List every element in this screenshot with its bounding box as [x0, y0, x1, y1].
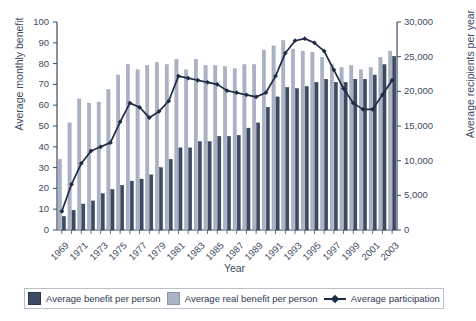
bar-benefit	[363, 79, 366, 230]
bar-benefit	[344, 82, 347, 230]
bar-benefit	[305, 86, 308, 230]
bar-real-benefit	[321, 57, 324, 230]
bar-real-benefit	[126, 65, 129, 230]
bar-benefit	[208, 142, 211, 230]
bar-benefit	[257, 123, 260, 230]
bar-benefit	[169, 159, 172, 230]
bar-real-benefit	[311, 52, 314, 230]
y-tick-right: 15,000	[404, 120, 448, 131]
participation-marker	[302, 36, 307, 41]
bar-benefit	[159, 168, 162, 230]
line-marker-icon	[324, 293, 346, 304]
y-tick-left: 10	[19, 203, 49, 214]
bar-real-benefit	[87, 103, 90, 230]
legend-label: Average participation	[351, 293, 440, 304]
bar-benefit	[179, 148, 182, 230]
bar-real-benefit	[204, 66, 207, 230]
bar-real-benefit	[165, 65, 168, 230]
y-tick-left: 30	[19, 162, 49, 173]
bar-real-benefit	[262, 50, 265, 230]
bar-benefit	[150, 175, 153, 230]
chart-legend: Average benefit per person Average real …	[24, 288, 444, 309]
bar-real-benefit	[389, 51, 392, 230]
bar-real-benefit	[340, 68, 343, 230]
bar-benefit	[101, 194, 104, 230]
bar-real-benefit	[194, 59, 197, 230]
bar-benefit	[121, 185, 124, 230]
bar-real-benefit	[214, 66, 217, 230]
bar-real-benefit	[379, 57, 382, 230]
bar-real-benefit	[146, 66, 149, 230]
bar-real-benefit	[185, 70, 188, 230]
bar-real-benefit	[359, 70, 362, 230]
y-tick-left: 60	[19, 99, 49, 110]
bar-benefit	[227, 136, 230, 230]
bar-benefit	[237, 135, 240, 230]
bar-benefit	[334, 82, 337, 230]
bar-real-benefit	[58, 159, 61, 230]
bar-benefit	[295, 89, 298, 230]
bar-real-benefit	[272, 46, 275, 230]
legend-item-average-participation: Average participation	[324, 293, 440, 304]
bar-real-benefit	[301, 51, 304, 230]
bar-real-benefit	[107, 90, 110, 230]
bar-benefit	[198, 142, 201, 230]
legend-label: Average benefit per person	[46, 293, 160, 304]
bar-benefit	[266, 107, 269, 230]
legend-item-average-benefit: Average benefit per person	[28, 292, 160, 305]
y-tick-right: 30,000	[404, 16, 448, 27]
bar-benefit	[130, 181, 133, 230]
bar-real-benefit	[282, 41, 285, 230]
bar-benefit	[373, 75, 376, 230]
bar-real-benefit	[350, 66, 353, 230]
y-tick-left: 80	[19, 58, 49, 69]
y-tick-right: 10,000	[404, 155, 448, 166]
bar-benefit	[325, 79, 328, 230]
bar-benefit	[218, 136, 221, 230]
bar-real-benefit	[253, 65, 256, 230]
y-tick-left: 50	[19, 120, 49, 131]
y-tick-left: 20	[19, 182, 49, 193]
y-tick-left: 100	[19, 16, 49, 27]
bar-benefit	[315, 82, 318, 230]
legend-label: Average real benefit per person	[185, 293, 318, 304]
y-tick-right: 5,000	[404, 189, 448, 200]
bar-benefit	[393, 56, 396, 230]
legend-item-average-real-benefit: Average real benefit per person	[167, 292, 318, 305]
bar-real-benefit	[330, 65, 333, 230]
bar-benefit	[72, 210, 75, 230]
bar-real-benefit	[369, 68, 372, 230]
y-tick-left: 90	[19, 37, 49, 48]
bar-benefit	[189, 148, 192, 230]
y-tick-right: 25,000	[404, 51, 448, 62]
y-tick-left: 70	[19, 78, 49, 89]
y-tick-left: 40	[19, 141, 49, 152]
light-swatch-icon	[167, 292, 180, 305]
bar-benefit	[247, 128, 250, 230]
bar-benefit	[140, 179, 143, 230]
y-tick-left: 0	[19, 224, 49, 235]
bar-real-benefit	[136, 70, 139, 230]
bar-real-benefit	[97, 102, 100, 230]
y-tick-right: 20,000	[404, 85, 448, 96]
bar-real-benefit	[243, 65, 246, 230]
bar-benefit	[276, 97, 279, 230]
bar-real-benefit	[117, 75, 120, 230]
bar-benefit	[82, 204, 85, 230]
bar-benefit	[62, 216, 65, 230]
bar-benefit	[91, 201, 94, 230]
bar-benefit	[111, 189, 114, 230]
bar-benefit	[286, 88, 289, 230]
y-tick-right: 0	[404, 224, 448, 235]
dark-swatch-icon	[28, 292, 41, 305]
bar-real-benefit	[291, 49, 294, 230]
bar-real-benefit	[68, 123, 71, 230]
bar-real-benefit	[155, 63, 158, 230]
